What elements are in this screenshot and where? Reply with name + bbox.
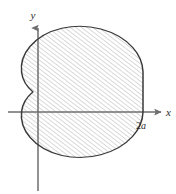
cardioid-region: [21, 26, 143, 157]
x-intercept-label: 2a: [136, 120, 146, 131]
x-intercept-symbol: a: [141, 120, 146, 131]
y-axis-label: y: [30, 9, 36, 21]
cardioid-fill: [21, 26, 143, 157]
cardioid-figure: x y 2a: [0, 0, 176, 194]
figure-canvas: x y 2a: [0, 0, 176, 194]
x-axis-label: x: [165, 106, 171, 118]
